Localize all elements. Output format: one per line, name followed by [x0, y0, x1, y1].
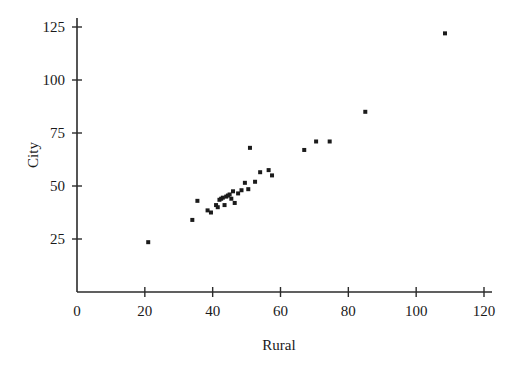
x-axis-title: Rural [262, 337, 295, 353]
x-tick-label: 60 [273, 303, 288, 319]
data-point [443, 31, 447, 35]
data-point [258, 170, 262, 174]
plot-canvas: 255075100125 020406080100120 City Rural [0, 0, 520, 366]
data-point-group [146, 31, 447, 244]
data-point [246, 187, 250, 191]
data-point [231, 189, 235, 193]
x-tick-label-group: 020406080100120 [73, 303, 495, 319]
x-axis: 020406080100120 [73, 287, 495, 319]
data-point [363, 110, 367, 114]
x-tick-label: 100 [405, 303, 428, 319]
data-point [223, 203, 227, 207]
data-point [209, 211, 213, 215]
x-tick-label: 20 [137, 303, 152, 319]
data-point [302, 148, 306, 152]
data-point [146, 240, 150, 244]
data-point [314, 139, 318, 143]
x-tick-label: 40 [205, 303, 220, 319]
data-point [233, 201, 237, 205]
data-point [190, 218, 194, 222]
y-axis-title: City [25, 142, 41, 168]
data-point [243, 181, 247, 185]
y-tick-label: 100 [43, 72, 66, 88]
data-point [270, 173, 274, 177]
data-point [328, 139, 332, 143]
y-tick-label-group: 255075100125 [43, 19, 66, 247]
scatter-plot: 255075100125 020406080100120 City Rural [0, 0, 520, 366]
y-axis: 255075100125 [43, 18, 83, 292]
x-tick-label: 0 [73, 303, 81, 319]
x-tick-label: 80 [341, 303, 356, 319]
data-point [216, 205, 220, 209]
y-tick-label: 75 [50, 125, 65, 141]
data-point [229, 197, 233, 201]
data-point [195, 199, 199, 203]
x-tick-label: 120 [473, 303, 496, 319]
data-point [240, 188, 244, 192]
y-tick-label: 50 [50, 178, 65, 194]
y-tick-label: 25 [50, 231, 65, 247]
y-tick-label: 125 [43, 19, 66, 35]
data-point [253, 180, 257, 184]
data-point [267, 168, 271, 172]
data-point [248, 146, 252, 150]
